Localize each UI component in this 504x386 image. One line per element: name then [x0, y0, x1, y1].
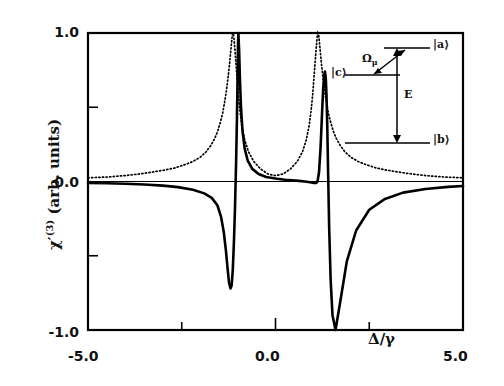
inset-field-label: E — [404, 88, 412, 101]
inset-state-c-label: |c⟩ — [331, 66, 347, 79]
y-tick-label-zero: 0.0 — [24, 174, 79, 190]
y-axis-title-prime: ′ — [45, 236, 63, 240]
x-tick-label-left: -5.0 — [68, 348, 99, 364]
y-axis-title-superscript: (3) — [44, 220, 55, 236]
y-tick-label-bottom: -1.0 — [16, 324, 79, 340]
x-tick-label-mid: 0.0 — [255, 348, 280, 364]
y-tick-label-top: 1.0 — [24, 24, 79, 40]
figure-panel: χ′(3) (arb. units) 1.0 0.0 -1.0 -5.0 0.0… — [0, 0, 504, 386]
inset-coupling-label: Ωμ — [362, 52, 378, 67]
inset-level-diagram — [345, 48, 430, 143]
inset-state-b-label: |b⟩ — [433, 133, 450, 146]
inset-coupling-omega: Ω — [362, 52, 372, 65]
x-axis-title: Δ/γ — [368, 330, 395, 348]
inset-state-a-label: |a⟩ — [433, 38, 449, 51]
inset-field-arrowhead-down — [393, 135, 401, 143]
y-axis-title-units: (arb. units) — [45, 119, 63, 220]
x-tick-label-right: 5.0 — [443, 348, 468, 364]
y-axis-title-chi: χ — [45, 240, 63, 250]
series-absorptive-dotted — [88, 33, 463, 178]
inset-coupling-subscript: μ — [372, 57, 378, 67]
